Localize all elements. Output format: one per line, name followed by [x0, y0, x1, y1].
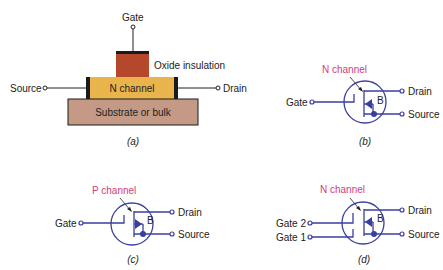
- gate2-terminal: [308, 221, 312, 225]
- drain-terminal: [400, 208, 404, 212]
- drain-label: Drain: [178, 207, 202, 218]
- drain-terminal: [216, 86, 220, 90]
- channel-type-label: N channel: [322, 64, 367, 75]
- caption-c: (c): [127, 254, 139, 265]
- source-label: Source: [408, 229, 440, 240]
- source-body-junction: [371, 111, 377, 117]
- caption-d: (d): [358, 254, 370, 265]
- gate-label: Gate: [286, 97, 308, 108]
- body-arrow-inward-icon: [365, 99, 372, 109]
- body-label: B: [147, 215, 154, 226]
- substrate-label: Substrate or bulk: [95, 107, 172, 118]
- n-channel-label: N channel: [109, 83, 154, 94]
- body-label: B: [377, 95, 384, 106]
- drain-label: Drain: [408, 205, 432, 216]
- oxide-layer: [116, 51, 149, 77]
- caption-b: (b): [359, 136, 371, 147]
- source-terminal: [170, 232, 174, 236]
- panel-d-dual-gate-symbol: N channel Gate 2 Gate 1 Drain B Source (…: [276, 184, 440, 265]
- drain-terminal: [400, 89, 404, 93]
- gate-electrode: [83, 215, 124, 223]
- gate-label: Gate: [122, 12, 144, 23]
- drain-label: Drain: [408, 86, 432, 97]
- source-body-junction: [371, 231, 377, 237]
- oxide-label: Oxide insulation: [154, 60, 225, 71]
- gate-electrode: [314, 94, 354, 102]
- gate-terminal: [131, 25, 135, 29]
- gate-metal: [116, 51, 149, 54]
- pointer-arrowhead: [356, 206, 361, 211]
- source-terminal: [400, 232, 404, 236]
- drain-label: Drain: [223, 83, 247, 94]
- drain-contact: [174, 77, 178, 99]
- panel-a-cross-section: Gate Oxide insulation N channel Substrat…: [10, 12, 247, 147]
- source-label: Source: [408, 109, 440, 120]
- caption-a: (a): [127, 136, 139, 147]
- channel-type-label: P channel: [92, 185, 136, 196]
- gate1-terminal: [308, 235, 312, 239]
- panel-b-n-channel-symbol: N channel Gate Drain B Source (b): [286, 64, 440, 147]
- drain-terminal: [170, 210, 174, 214]
- gate2-label: Gate 2: [276, 218, 306, 229]
- source-terminal: [400, 112, 404, 116]
- body-arrow-inward-icon: [365, 217, 372, 227]
- channel-type-label: N channel: [320, 184, 365, 195]
- source-terminal: [43, 86, 47, 90]
- gate1-label: Gate 1: [276, 232, 306, 243]
- panel-c-p-channel-symbol: P channel Gate Drain B Source (c): [55, 185, 210, 265]
- gate-label: Gate: [55, 218, 77, 229]
- source-label: Source: [10, 83, 42, 94]
- source-body-junction: [140, 231, 146, 237]
- source-contact: [86, 77, 90, 99]
- source-label: Source: [178, 229, 210, 240]
- body-arrow-outward-icon: [135, 219, 142, 229]
- gate2-electrode: [312, 213, 353, 223]
- gate-terminal: [79, 221, 83, 225]
- gate-terminal: [310, 100, 314, 104]
- body-label: B: [377, 213, 384, 224]
